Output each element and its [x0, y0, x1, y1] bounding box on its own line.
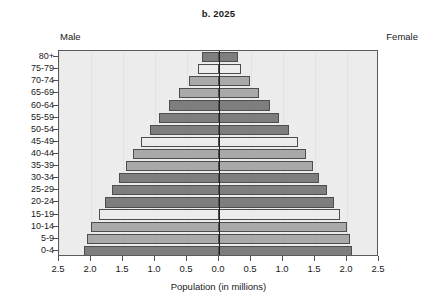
- bar-row: [59, 246, 377, 256]
- bar-row: [59, 161, 377, 171]
- x-axis-tick-label: 2.5: [51, 263, 64, 274]
- x-axis-tick: [90, 256, 91, 261]
- bar-male-75-79: [198, 64, 219, 74]
- bar-row: [59, 125, 377, 135]
- x-axis-labels: 2.52.01.51.00.50.00.51.01.52.02.5: [58, 263, 378, 277]
- plot-area: [58, 50, 378, 256]
- y-axis-label-25-29: 25-29: [31, 184, 54, 194]
- x-axis-ticks: [58, 256, 378, 262]
- bar-row: [59, 197, 377, 207]
- bar-male-70-74: [189, 76, 219, 86]
- x-axis-tick-label: 0.0: [211, 263, 224, 274]
- bar-row: [59, 149, 377, 159]
- x-axis-tick: [282, 256, 283, 261]
- bar-row: [59, 100, 377, 110]
- bar-male-45-49: [141, 137, 219, 147]
- x-axis-tick: [346, 256, 347, 261]
- bar-female-55-59: [219, 113, 279, 123]
- y-axis-label-75-79: 75-79: [31, 63, 54, 73]
- bar-male-25-29: [112, 185, 219, 195]
- y-axis-label-0-4: 0-4: [41, 245, 54, 255]
- bar-male-20-24: [105, 197, 219, 207]
- bar-female-80+: [219, 52, 238, 62]
- y-axis-labels: 80+75-7970-7465-6960-6455-5950-5445-4940…: [0, 50, 54, 256]
- bar-male-40-44: [133, 149, 219, 159]
- y-axis-label-40-44: 40-44: [31, 148, 54, 158]
- y-axis-label-15-19: 15-19: [31, 209, 54, 219]
- bar-row: [59, 185, 377, 195]
- chart-title: b. 2025: [0, 8, 437, 19]
- bar-row: [59, 88, 377, 98]
- center-axis-line: [219, 51, 220, 255]
- bar-row: [59, 209, 377, 219]
- bar-female-25-29: [219, 185, 327, 195]
- bar-male-0-4: [84, 246, 219, 256]
- x-axis-tick: [122, 256, 123, 261]
- x-axis-tick-label: 1.0: [147, 263, 160, 274]
- bar-row: [59, 113, 377, 123]
- x-axis-tick: [250, 256, 251, 261]
- bar-female-10-14: [219, 222, 347, 232]
- y-axis-label-35-39: 35-39: [31, 160, 54, 170]
- x-axis-tick-label: 0.5: [243, 263, 256, 274]
- bar-row: [59, 64, 377, 74]
- bar-male-10-14: [91, 222, 219, 232]
- bar-male-55-59: [159, 113, 219, 123]
- bar-female-15-19: [219, 209, 340, 219]
- x-axis-tick-label: 2.0: [339, 263, 352, 274]
- y-axis-label-70-74: 70-74: [31, 75, 54, 85]
- x-axis-tick-label: 0.5: [179, 263, 192, 274]
- bar-male-60-64: [169, 100, 219, 110]
- bar-female-65-69: [219, 88, 259, 98]
- female-side-label: Female: [386, 31, 418, 42]
- bar-row: [59, 52, 377, 62]
- x-axis-title: Population (in millions): [0, 281, 437, 292]
- bar-female-50-54: [219, 125, 289, 135]
- y-axis-label-10-14: 10-14: [31, 221, 54, 231]
- bar-male-30-34: [119, 173, 219, 183]
- bar-male-50-54: [150, 125, 219, 135]
- x-axis-tick-label: 1.0: [275, 263, 288, 274]
- bar-row: [59, 137, 377, 147]
- bar-male-65-69: [179, 88, 219, 98]
- x-axis-tick-label: 1.5: [307, 263, 320, 274]
- y-axis-label-45-49: 45-49: [31, 136, 54, 146]
- bar-female-40-44: [219, 149, 306, 159]
- y-axis-label-5-9: 5-9: [41, 233, 54, 243]
- x-axis-tick: [154, 256, 155, 261]
- bar-female-35-39: [219, 161, 313, 171]
- bar-female-0-4: [219, 246, 352, 256]
- x-axis-tick: [314, 256, 315, 261]
- bar-female-60-64: [219, 100, 270, 110]
- bar-female-30-34: [219, 173, 319, 183]
- bar-female-45-49: [219, 137, 298, 147]
- bar-female-70-74: [219, 76, 250, 86]
- bar-female-75-79: [219, 64, 241, 74]
- y-axis-label-55-59: 55-59: [31, 112, 54, 122]
- x-axis-tick-label: 2.5: [371, 263, 384, 274]
- y-axis-label-60-64: 60-64: [31, 100, 54, 110]
- x-axis-tick: [58, 256, 59, 261]
- y-axis-label-65-69: 65-69: [31, 87, 54, 97]
- y-axis-label-30-34: 30-34: [31, 172, 54, 182]
- x-axis-tick: [218, 256, 219, 261]
- bar-male-80+: [202, 52, 219, 62]
- y-axis-label-80+: 80+: [39, 51, 54, 61]
- x-axis-tick: [186, 256, 187, 261]
- bar-female-5-9: [219, 234, 350, 244]
- bar-row: [59, 76, 377, 86]
- male-side-label: Male: [60, 31, 81, 42]
- bar-male-15-19: [99, 209, 219, 219]
- bar-male-35-39: [126, 161, 219, 171]
- bar-female-20-24: [219, 197, 334, 207]
- x-axis-tick-label: 2.0: [83, 263, 96, 274]
- bar-row: [59, 234, 377, 244]
- x-axis-tick-label: 1.5: [115, 263, 128, 274]
- y-axis-label-50-54: 50-54: [31, 124, 54, 134]
- population-pyramid-figure: b. 2025 Male Female 80+75-7970-7465-6960…: [0, 0, 437, 306]
- bar-male-5-9: [87, 234, 219, 244]
- y-axis-label-20-24: 20-24: [31, 196, 54, 206]
- x-axis-tick: [378, 256, 379, 261]
- bar-row: [59, 173, 377, 183]
- bar-row: [59, 222, 377, 232]
